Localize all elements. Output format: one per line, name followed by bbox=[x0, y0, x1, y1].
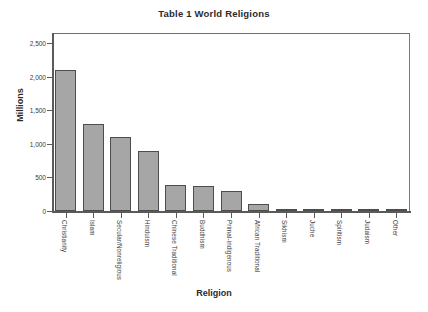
bar bbox=[83, 124, 104, 211]
plot-area bbox=[52, 33, 410, 212]
bar bbox=[386, 209, 407, 211]
y-axis-title: Millions bbox=[15, 65, 25, 145]
y-tick-label: 1,000 bbox=[30, 140, 46, 147]
bar bbox=[165, 185, 186, 211]
x-tick-label: Buddhism bbox=[199, 220, 206, 249]
x-tick-mark bbox=[148, 213, 149, 218]
chart-figure: Table 1 World Religions Millions 05001,0… bbox=[0, 0, 428, 312]
x-tick-label: Sikhism bbox=[281, 220, 288, 243]
x-tick-label: Hinduism bbox=[144, 220, 151, 247]
bar bbox=[248, 204, 269, 211]
x-tick-mark bbox=[176, 213, 177, 218]
bar bbox=[193, 186, 214, 211]
x-tick-label: African Traditional bbox=[254, 220, 261, 272]
y-tick-mark bbox=[47, 43, 53, 44]
x-tick-mark bbox=[341, 213, 342, 218]
x-tick-mark bbox=[93, 213, 94, 218]
x-tick-label: Spiritism bbox=[336, 220, 343, 245]
bar bbox=[303, 209, 324, 211]
x-tick-label: Juche bbox=[309, 220, 316, 237]
y-tick-label: 0 bbox=[42, 208, 46, 215]
x-tick-mark bbox=[121, 213, 122, 218]
bar bbox=[358, 209, 379, 211]
x-tick-mark bbox=[396, 213, 397, 218]
x-tick-label: Secular/Nonreligious bbox=[116, 220, 123, 280]
x-tick-mark bbox=[259, 213, 260, 218]
y-tick-mark bbox=[47, 177, 53, 178]
x-tick-label: Judaism bbox=[364, 220, 371, 244]
bar bbox=[331, 209, 352, 211]
x-tick-label: Christianity bbox=[61, 220, 68, 252]
x-tick-label: Other bbox=[392, 220, 399, 236]
y-tick-mark bbox=[47, 77, 53, 78]
x-tick-mark bbox=[314, 213, 315, 218]
y-axis-line bbox=[52, 33, 54, 213]
y-tick-mark bbox=[47, 211, 53, 212]
x-tick-mark bbox=[231, 213, 232, 218]
bar bbox=[138, 151, 159, 211]
x-tick-label: Primal-indigenous bbox=[226, 220, 233, 272]
y-tick-mark bbox=[47, 110, 53, 111]
x-tick-mark bbox=[369, 213, 370, 218]
y-tick-mark bbox=[47, 144, 53, 145]
x-axis-title: Religion bbox=[0, 288, 428, 298]
bar bbox=[221, 191, 242, 211]
chart-title: Table 1 World Religions bbox=[0, 8, 428, 19]
x-tick-label: Islam bbox=[89, 220, 96, 236]
x-tick-mark bbox=[66, 213, 67, 218]
y-tick-label: 2,000 bbox=[30, 73, 46, 80]
x-tick-mark bbox=[203, 213, 204, 218]
bar bbox=[110, 137, 131, 211]
bar bbox=[55, 70, 76, 211]
y-tick-label: 500 bbox=[35, 174, 46, 181]
y-tick-label: 2,500 bbox=[30, 40, 46, 47]
x-tick-mark bbox=[286, 213, 287, 218]
x-tick-label: Chinese Traditional bbox=[171, 220, 178, 276]
bar bbox=[276, 209, 297, 211]
y-tick-label: 1,500 bbox=[30, 107, 46, 114]
